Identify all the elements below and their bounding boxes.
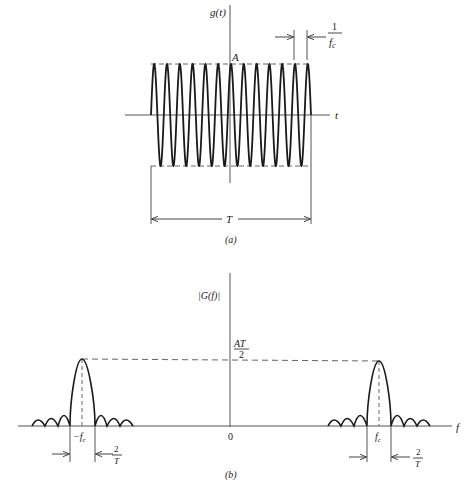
bw-left-label-numerator: 2 bbox=[114, 444, 119, 454]
period-label-denominator: fc bbox=[329, 36, 336, 50]
caption-b: (b) bbox=[225, 469, 237, 481]
diagram-canvas: g(t) t A 1 fc T (a) |G(f)| f bbox=[0, 0, 476, 489]
peak-label-denominator: 2 bbox=[239, 349, 244, 360]
g-axis-label: g(t) bbox=[210, 6, 226, 19]
figure-a: g(t) t A 1 fc T (a) bbox=[125, 5, 342, 246]
bw-right-label-denominator: T bbox=[415, 459, 421, 469]
G-axis-label: |G(f)| bbox=[198, 290, 220, 302]
pos-fc-label: fc bbox=[375, 431, 382, 444]
figure-b: |G(f)| f 0 AT 2 −fc fc 2 T 2 T (b) bbox=[18, 273, 461, 481]
peak-label-numerator: AT bbox=[233, 338, 247, 349]
duration-label: T bbox=[226, 213, 233, 225]
neg-fc-label: −fc bbox=[73, 431, 87, 444]
t-axis-label: t bbox=[335, 109, 339, 121]
caption-a: (a) bbox=[225, 234, 237, 246]
f-axis-label: f bbox=[456, 421, 461, 433]
period-label-numerator: 1 bbox=[332, 21, 337, 32]
origin-label: 0 bbox=[228, 431, 233, 442]
bw-left-label-denominator: T bbox=[114, 456, 120, 466]
amplitude-label: A bbox=[231, 51, 239, 63]
bw-right-label-numerator: 2 bbox=[416, 447, 421, 457]
